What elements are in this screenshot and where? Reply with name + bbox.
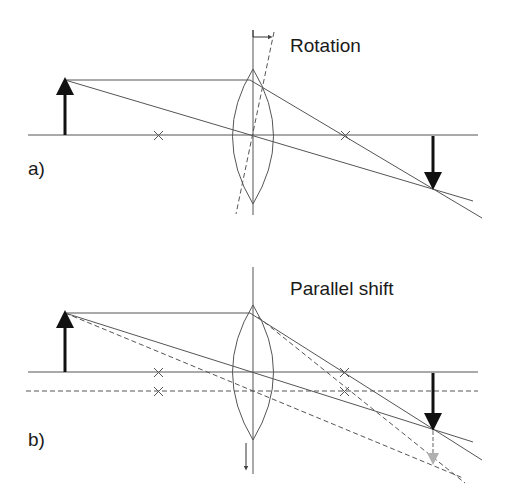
panel-a-label: a) [28, 158, 45, 179]
panel-b-title: Parallel shift [290, 278, 394, 299]
panel-a: Rotation a) [28, 30, 482, 218]
rotated-lens-axis [236, 32, 274, 214]
panel-a-title: Rotation [290, 35, 361, 56]
optics-diagram: Rotation a) [0, 0, 505, 496]
ray-central [65, 80, 473, 201]
ray-refracted [250, 80, 482, 218]
panel-b-label: b) [28, 429, 45, 450]
ray-refracted [250, 313, 482, 460]
panel-b: Parallel shift b) [26, 267, 482, 483]
rotation-indicator-icon [253, 30, 270, 37]
ray-central-shifted [65, 313, 463, 478]
ray-central [65, 313, 473, 442]
